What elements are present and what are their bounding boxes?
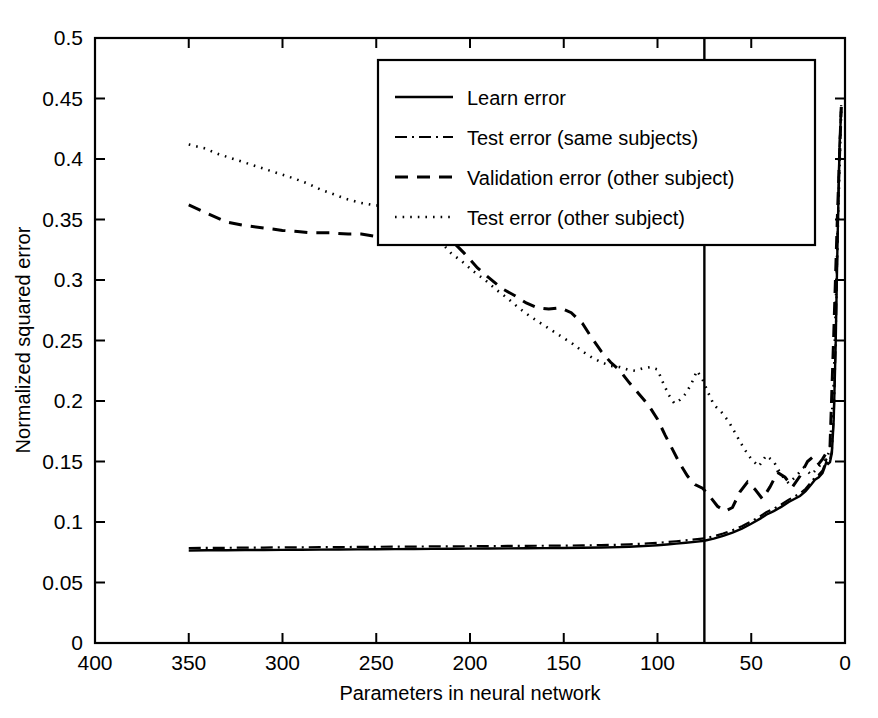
x-tick-label: 200: [452, 651, 487, 674]
y-tick-label: 0.05: [42, 571, 83, 594]
legend-item-label: Test error (same subjects): [467, 127, 698, 149]
x-tick-label: 350: [171, 651, 206, 674]
legend-item-label: Learn error: [467, 87, 566, 109]
x-axis-title: Parameters in neural network: [339, 682, 601, 704]
x-tick-label: 150: [546, 651, 581, 674]
legend-item-label: Test error (other subject): [467, 207, 685, 229]
y-tick-label: 0.25: [42, 329, 83, 352]
y-tick-label: 0.5: [54, 26, 83, 49]
x-tick-label: 100: [640, 651, 675, 674]
x-tick-label: 400: [77, 651, 112, 674]
chart-legend: Learn errorTest error (same subjects)Val…: [378, 60, 815, 245]
y-axis-title: Normalized squared error: [12, 226, 34, 453]
x-tick-label: 300: [265, 651, 300, 674]
y-tick-label: 0.2: [54, 389, 83, 412]
y-tick-label: 0: [71, 631, 83, 654]
y-tick-label: 0.15: [42, 450, 83, 473]
x-tick-label: 250: [359, 651, 394, 674]
legend-item-label: Validation error (other subject): [467, 167, 735, 189]
y-tick-label: 0.35: [42, 208, 83, 231]
y-tick-label: 0.1: [54, 510, 83, 533]
chart-figure: 400350300250200150100500 00.050.10.150.2…: [0, 0, 878, 718]
x-tick-label: 0: [839, 651, 851, 674]
y-tick-label: 0.4: [54, 147, 84, 170]
y-tick-label: 0.45: [42, 87, 83, 110]
y-tick-label: 0.3: [54, 268, 83, 291]
x-tick-label: 50: [740, 651, 763, 674]
chart-svg: 400350300250200150100500 00.050.10.150.2…: [0, 0, 878, 718]
